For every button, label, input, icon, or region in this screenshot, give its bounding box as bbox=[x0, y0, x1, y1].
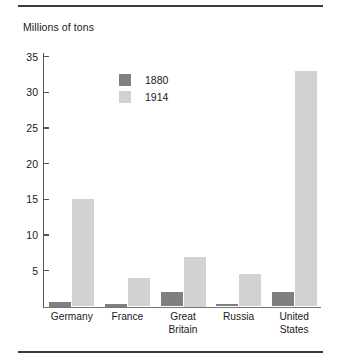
bar-france-1880 bbox=[105, 304, 127, 307]
y-tick-label: 10 bbox=[12, 230, 38, 241]
bar-united-states-1914 bbox=[295, 71, 317, 307]
y-tick-label: 35 bbox=[12, 51, 38, 62]
bar-france-1914 bbox=[128, 278, 150, 307]
bar-united-states-1880 bbox=[272, 292, 294, 306]
y-tick-mark bbox=[44, 234, 49, 235]
plot-area: 3530252015105 18801914 GermanyFranceGrea… bbox=[0, 0, 341, 363]
y-tick-mark bbox=[44, 199, 49, 200]
y-tick-mark bbox=[44, 127, 49, 128]
legend-label: 1914 bbox=[145, 91, 168, 103]
x-axis-line bbox=[43, 307, 321, 308]
category-label-line: States bbox=[260, 324, 328, 337]
y-tick-mark bbox=[44, 56, 49, 57]
y-tick-label: 25 bbox=[12, 123, 38, 134]
bottom-divider-rule bbox=[18, 351, 323, 353]
y-tick-label: 5 bbox=[12, 266, 38, 277]
y-tick-label: 15 bbox=[12, 194, 38, 205]
legend-label: 1880 bbox=[145, 74, 168, 86]
legend-swatch-1880 bbox=[119, 74, 131, 86]
category-label-line: United bbox=[260, 311, 328, 324]
bar-germany-1914 bbox=[72, 199, 94, 306]
category-label-line: Britain bbox=[149, 324, 217, 337]
y-tick-mark bbox=[44, 270, 49, 271]
y-tick-mark bbox=[44, 163, 49, 164]
legend-swatch-1914 bbox=[119, 91, 131, 103]
y-tick-mark bbox=[44, 92, 49, 93]
bar-germany-1880 bbox=[49, 302, 71, 307]
y-tick-label: 20 bbox=[12, 158, 38, 169]
bar-great-britain-1914 bbox=[184, 257, 206, 307]
bar-russia-1880 bbox=[216, 304, 238, 306]
y-tick-label: 30 bbox=[12, 87, 38, 98]
bar-great-britain-1880 bbox=[161, 292, 183, 306]
category-label-united-states: UnitedStates bbox=[260, 311, 328, 336]
chart-figure: Millions of tons 3530252015105 18801914 … bbox=[0, 0, 341, 363]
bar-russia-1914 bbox=[239, 274, 261, 306]
